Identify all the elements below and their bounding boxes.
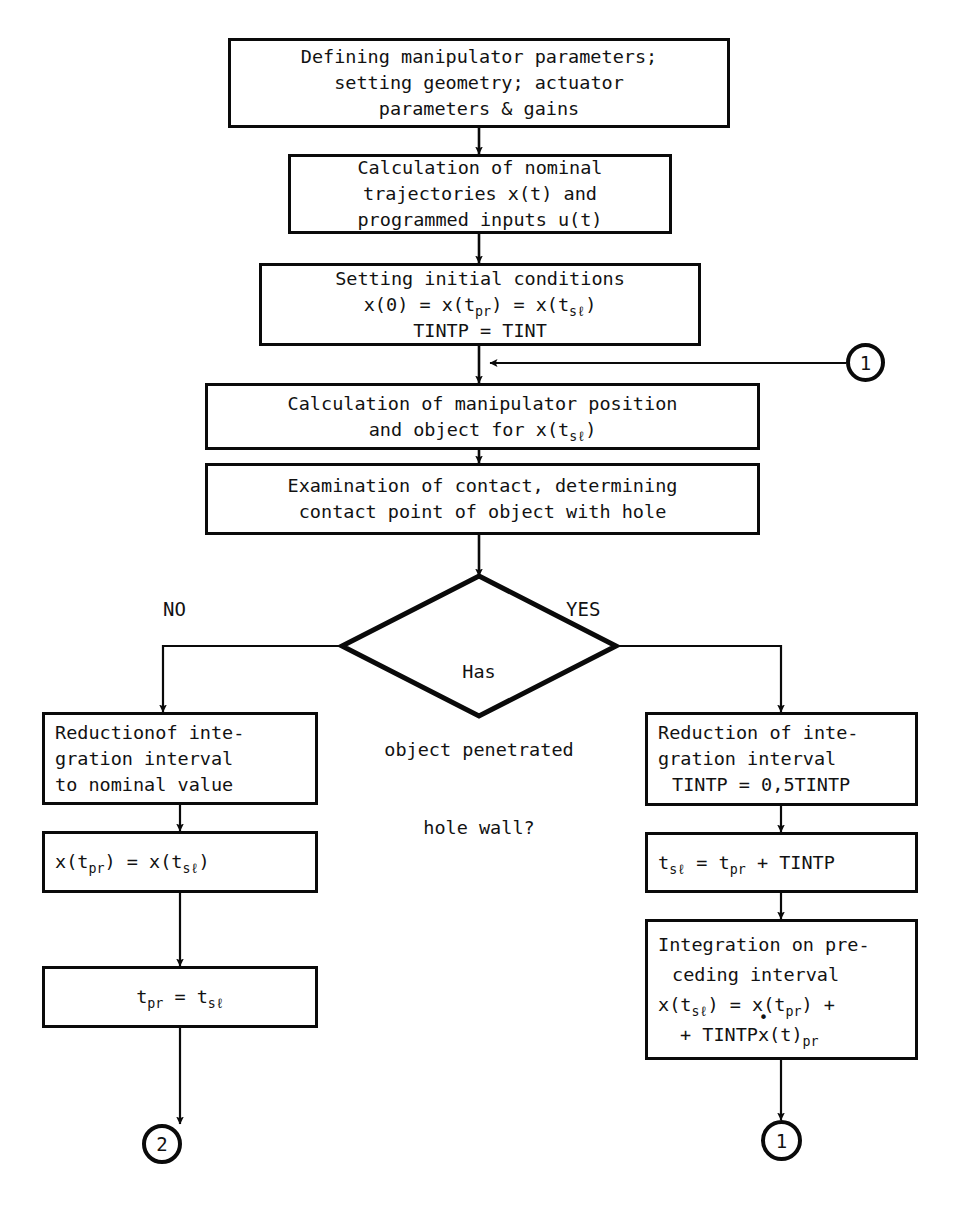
eq-integ1-sub1: sℓ — [691, 1004, 707, 1019]
eq-integ2-pre: + TINTP — [680, 1024, 758, 1045]
eq-yestsl-post: + TINTP — [746, 852, 835, 873]
connector-1-top-right: 1 — [846, 343, 885, 382]
eq-noassignx-mid: ) = x(t — [104, 851, 182, 872]
eq-noassignx-post: ) — [198, 851, 209, 872]
box-yes-integration: Integration on pre- ceding interval x(ts… — [645, 919, 918, 1060]
box-nominal-trajectories: Calculation of nominal trajectories x(t)… — [288, 154, 672, 234]
decision-diamond-text: Has object penetrated hole wall? — [342, 607, 616, 893]
connector-1-bottom-label: 1 — [776, 1130, 787, 1152]
decision-line1: Has — [342, 659, 616, 685]
eq-integ2-sub: pr — [803, 1034, 819, 1049]
eq-noassignt-sub1: pr — [147, 996, 163, 1011]
decision-line3: hole wall? — [342, 815, 616, 841]
eq-integ2-mid: (t) — [769, 1024, 802, 1045]
eq-noassignt-pre: t — [136, 986, 147, 1007]
eq-position-sub: sℓ — [569, 429, 585, 444]
box-no-assign-t-equation: tpr = tsℓ — [45, 984, 315, 1010]
box-define-parameters: Defining manipulator parameters; setting… — [228, 38, 730, 128]
eq-noassignx-sub2: sℓ — [182, 861, 198, 876]
box-define-parameters-line2: setting geometry; actuator — [231, 70, 727, 96]
eq-position-post: ) — [585, 419, 596, 440]
box-initial-conditions-equation: x(0) = x(tpr) = x(tsℓ) — [262, 292, 698, 318]
box-yes-tsl: tsℓ = tpr + TINTP — [645, 832, 918, 893]
box-manipulator-position-line2: and object for x(tsℓ) — [208, 417, 757, 443]
box-nominal-trajectories-line2: trajectories x(t) and — [291, 181, 669, 207]
eq-yestsl-pre: t — [658, 852, 669, 873]
branch-label-yes: YES — [566, 598, 600, 620]
box-define-parameters-line1: Defining manipulator parameters; — [231, 44, 727, 70]
box-nominal-trajectories-line1: Calculation of nominal — [291, 155, 669, 181]
box-no-reduce-line1: Reductionof inte- — [55, 720, 244, 746]
path-no-branch — [163, 646, 342, 712]
eq-integ1-post: ) + — [801, 994, 834, 1015]
branch-label-no: NO — [163, 598, 186, 620]
decision-line2: object penetrated — [342, 737, 616, 763]
eq-initial-sub2: sℓ — [569, 304, 585, 319]
box-no-reduce-line2: gration interval — [55, 746, 233, 772]
eq-initial-post: ) — [585, 294, 596, 315]
eq-yestsl-sub2: pr — [730, 862, 746, 877]
box-yes-integration-equation2: + TINTPx(t)pr — [658, 1020, 819, 1050]
eq-noassignx-pre: x(t — [55, 851, 88, 872]
box-define-parameters-line3: parameters & gains — [231, 96, 727, 122]
connector-1-bottom-right: 1 — [761, 1120, 802, 1161]
eq-integ1-sub2: pr — [785, 1004, 801, 1019]
flowchart-page: Defining manipulator parameters; setting… — [0, 0, 957, 1207]
eq-integ1-mid: ) = x(t — [707, 994, 785, 1015]
eq-initial-pre: x(0) = x(t — [364, 294, 475, 315]
box-yes-reduce-line3: TINTP = 0,5TINTP — [658, 772, 850, 798]
box-manipulator-position-line1: Calculation of manipulator position — [208, 391, 757, 417]
box-initial-conditions-line1: Setting initial conditions — [262, 266, 698, 292]
box-no-assign-x: x(tpr) = x(tsℓ) — [42, 831, 318, 893]
eq-yestsl-sub1: sℓ — [669, 862, 685, 877]
box-initial-conditions-line3: TINTP = TINT — [262, 318, 698, 344]
box-initial-conditions: Setting initial conditions x(0) = x(tpr)… — [259, 263, 701, 346]
box-no-assign-t: tpr = tsℓ — [42, 966, 318, 1028]
box-no-assign-x-equation: x(tpr) = x(tsℓ) — [55, 849, 210, 875]
box-yes-integration-line1: Integration on pre- — [658, 930, 870, 960]
box-manipulator-position: Calculation of manipulator position and … — [205, 383, 760, 450]
eq-noassignt-sub2: sℓ — [208, 996, 224, 1011]
eq-noassignx-sub1: pr — [88, 861, 104, 876]
eq-yestsl-mid: = t — [685, 852, 730, 873]
box-examine-contact-line1: Examination of contact, determining — [208, 473, 757, 499]
box-yes-reduce-line1: Reduction of inte- — [658, 720, 858, 746]
eq-initial-mid: ) = x(t — [491, 294, 569, 315]
path-yes-branch — [616, 646, 781, 712]
box-yes-tsl-equation: tsℓ = tpr + TINTP — [658, 850, 835, 876]
x-dot-icon: x — [758, 1020, 769, 1050]
box-examine-contact: Examination of contact, determining cont… — [205, 463, 760, 535]
box-no-reduce-line3: to nominal value — [55, 772, 233, 798]
eq-initial-sub1: pr — [475, 304, 491, 319]
box-examine-contact-line2: contact point of object with hole — [208, 499, 757, 525]
box-no-reduce-interval: Reductionof inte- gration interval to no… — [42, 712, 318, 805]
eq-noassignt-mid: = t — [163, 986, 208, 1007]
connector-1-top-label: 1 — [860, 352, 871, 374]
connector-2-label: 2 — [156, 1133, 167, 1155]
box-yes-integration-line2: ceding interval — [658, 960, 839, 990]
box-yes-reduce-line2: gration interval — [658, 746, 836, 772]
connector-2-bottom-left: 2 — [142, 1124, 182, 1164]
box-yes-integration-equation1: x(tsℓ) = x(tpr) + — [658, 990, 835, 1020]
box-nominal-trajectories-line3: programmed inputs u(t) — [291, 207, 669, 233]
eq-position-pre: and object for x(t — [369, 419, 569, 440]
box-yes-reduce-interval: Reduction of inte- gration interval TINT… — [645, 712, 918, 806]
eq-integ1-pre: x(t — [658, 994, 691, 1015]
